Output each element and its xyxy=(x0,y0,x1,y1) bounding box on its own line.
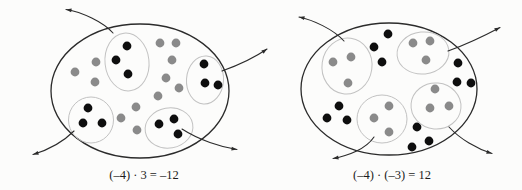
gray-counter xyxy=(154,92,163,101)
black-counter xyxy=(453,78,462,87)
gray-counter xyxy=(329,58,338,67)
counter-field-ellipse xyxy=(51,24,229,158)
gray-counter xyxy=(344,79,353,88)
black-counter xyxy=(378,58,387,67)
black-counter xyxy=(454,59,463,68)
figure-canvas: (–4) · 3 = –12 (–4) · (–3) = 12 xyxy=(0,0,522,190)
arrowhead-icon xyxy=(333,156,339,160)
left-panel-caption: (–4) · 3 = –12 xyxy=(109,168,179,182)
gray-counter xyxy=(132,103,141,112)
group-outline xyxy=(142,104,196,152)
gray-counter xyxy=(422,56,431,65)
gray-counter xyxy=(162,74,171,83)
black-counter xyxy=(201,79,210,88)
removal-arrow xyxy=(222,49,267,71)
diagram-layer xyxy=(33,8,500,159)
black-counter xyxy=(384,30,393,39)
counter-group xyxy=(357,95,407,143)
group-outline xyxy=(318,35,375,97)
gray-counter xyxy=(347,53,356,62)
group-outline xyxy=(357,95,407,143)
counter-group xyxy=(318,35,375,97)
removal-arrow xyxy=(33,131,74,155)
panel-right xyxy=(299,16,500,159)
gray-counter xyxy=(156,39,165,48)
right-panel-caption: (–4) · (–3) = 12 xyxy=(353,168,431,182)
counter-group xyxy=(69,97,114,143)
black-counter xyxy=(408,143,417,152)
textbook-figure: (–4) · 3 = –12 (–4) · (–3) = 12 xyxy=(0,0,522,190)
arrowhead-icon xyxy=(494,28,500,32)
gray-counter xyxy=(385,128,394,137)
gray-counter xyxy=(92,58,101,67)
gray-counter xyxy=(385,102,394,111)
arrowhead-icon xyxy=(231,147,237,151)
gray-counter xyxy=(175,84,184,93)
black-counter xyxy=(343,116,352,125)
gray-counter xyxy=(431,85,440,94)
black-counter xyxy=(79,119,88,128)
arrowhead-icon xyxy=(261,49,267,54)
gray-counter xyxy=(172,39,181,48)
counter-group xyxy=(102,31,152,93)
black-counter xyxy=(467,79,476,88)
gray-counter xyxy=(117,114,126,123)
arrowhead-icon xyxy=(486,150,492,154)
arrowhead-icon xyxy=(66,8,72,12)
removal-arrow xyxy=(448,28,500,52)
gray-counter xyxy=(71,68,80,77)
removal-arrow xyxy=(449,127,492,154)
gray-counter xyxy=(370,114,379,123)
group-outline xyxy=(69,97,114,143)
gray-counter xyxy=(91,78,100,87)
black-counter xyxy=(370,43,379,52)
gray-counter xyxy=(133,126,142,135)
gray-counter xyxy=(168,56,177,65)
black-counter xyxy=(124,70,133,79)
gray-counter xyxy=(426,37,435,46)
black-counter xyxy=(170,115,179,124)
black-counter xyxy=(335,102,344,111)
black-counter xyxy=(84,104,93,113)
black-counter xyxy=(200,60,209,69)
panel-left xyxy=(33,8,267,158)
counter-group xyxy=(185,55,225,105)
black-counter xyxy=(155,120,164,129)
group-outline xyxy=(102,31,152,93)
black-counter xyxy=(425,137,434,146)
black-counter xyxy=(323,114,332,123)
removal-arrow xyxy=(333,137,374,159)
removal-arrow xyxy=(299,17,344,41)
black-counter xyxy=(174,130,183,139)
black-counter xyxy=(98,119,107,128)
black-counter xyxy=(214,81,223,90)
gray-counter xyxy=(409,39,418,48)
gray-counter xyxy=(445,102,454,111)
black-counter xyxy=(123,42,132,51)
arrowhead-icon xyxy=(33,151,39,155)
gray-counter xyxy=(426,104,435,113)
counter-group xyxy=(142,104,196,152)
black-counter xyxy=(112,56,121,65)
